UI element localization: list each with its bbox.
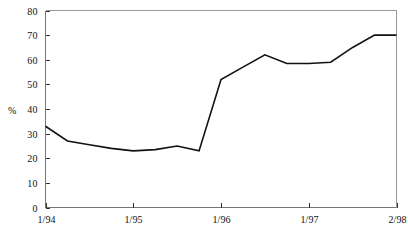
y-axis-tick-label: 80 xyxy=(12,6,38,17)
y-axis-tick-label: 60 xyxy=(12,55,38,66)
x-axis-tick-label: 1/97 xyxy=(290,214,330,225)
x-axis-tick-label: 2/98 xyxy=(378,214,408,225)
y-axis-tick-label: 20 xyxy=(12,153,38,164)
y-axis-tick-label: 70 xyxy=(12,30,38,41)
y-axis-tick-label: 50 xyxy=(12,79,38,90)
y-axis-tick-label: 30 xyxy=(12,129,38,140)
y-axis-ticks xyxy=(46,12,50,209)
axis-frame xyxy=(46,11,397,208)
x-axis-ticks xyxy=(47,203,398,208)
x-axis-tick-label: 1/96 xyxy=(202,214,242,225)
y-axis-tick-label: 10 xyxy=(12,178,38,189)
y-axis-tick-label: 0 xyxy=(12,203,38,214)
x-axis-tick-label: 1/95 xyxy=(114,214,154,225)
y-axis-title: % xyxy=(8,105,16,116)
data-series-line xyxy=(46,35,397,151)
line-chart: 01020304050607080 1/941/951/961/972/98 % xyxy=(0,0,408,237)
plot-area xyxy=(0,0,408,237)
x-axis-tick-label: 1/94 xyxy=(27,214,67,225)
